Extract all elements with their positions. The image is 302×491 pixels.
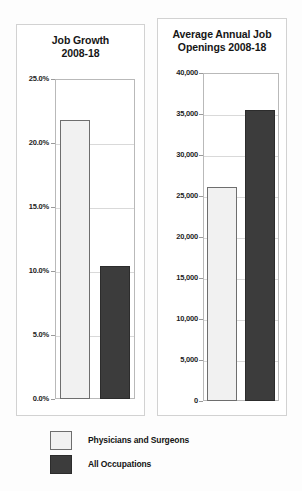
legend-item: All Occupations	[50, 452, 189, 476]
y-axis-tick-label: 20.0%	[9, 139, 49, 147]
legend-swatch-light	[50, 431, 72, 450]
bar-all-occupations	[100, 266, 130, 399]
y-axis-tick-label: 10.0%	[9, 267, 49, 275]
y-axis-tick-label: 30,000	[156, 151, 198, 159]
legend-item: Physicians and Surgeons	[50, 428, 189, 452]
chart-title-line-1: Average Annual Job	[162, 28, 282, 41]
chart-legend: Physicians and SurgeonsAll Occupations	[50, 428, 189, 476]
y-axis-tick-mark	[51, 399, 55, 400]
legend-label: All Occupations	[88, 459, 151, 469]
bar-physicians-and-surgeons	[60, 120, 90, 399]
legend-label: Physicians and Surgeons	[88, 435, 189, 445]
y-axis-tick-label: 25.0%	[9, 75, 49, 83]
chart-page: Job Growth 2008-18 25.0%20.0%15.0%10.0%5…	[0, 0, 302, 491]
y-axis-tick-label: 0	[156, 397, 198, 405]
chart-title-job-growth: Job Growth 2008-18	[21, 34, 140, 60]
legend-swatch-dark	[50, 455, 72, 474]
y-axis-tick-label: 15.0%	[9, 203, 49, 211]
y-axis-tick-mark	[51, 271, 55, 272]
y-axis-tick-label: 0.0%	[9, 395, 49, 403]
y-axis-tick-label: 5.0%	[9, 331, 49, 339]
y-axis-tick-mark	[51, 335, 55, 336]
bar-all-occupations	[245, 110, 275, 401]
y-axis-tick-mark	[51, 79, 55, 80]
y-axis-tick-mark	[199, 196, 203, 197]
y-axis-tick-mark	[199, 73, 203, 74]
y-axis-tick-label: 35,000	[156, 110, 198, 118]
y-axis-tick-mark	[199, 319, 203, 320]
y-axis-tick-mark	[199, 114, 203, 115]
y-axis-tick-mark	[199, 401, 203, 402]
bar-physicians-and-surgeons	[207, 187, 237, 401]
chart-panel-job-openings: Average Annual Job Openings 2008-18 40,0…	[157, 18, 287, 416]
chart-panel-job-growth: Job Growth 2008-18 25.0%20.0%15.0%10.0%5…	[16, 24, 145, 416]
chart-title-line-2: Openings 2008-18	[162, 41, 282, 54]
y-axis-tick-label: 20,000	[156, 233, 198, 241]
y-axis-tick-mark	[51, 143, 55, 144]
chart-title-line-2: 2008-18	[21, 47, 140, 60]
y-axis-tick-mark	[199, 360, 203, 361]
y-axis-tick-label: 15,000	[156, 274, 198, 282]
y-axis-tick-mark	[199, 237, 203, 238]
y-axis-tick-mark	[51, 207, 55, 208]
chart-title-job-openings: Average Annual Job Openings 2008-18	[162, 28, 282, 54]
y-axis-tick-mark	[199, 155, 203, 156]
y-axis-tick-label: 25,000	[156, 192, 198, 200]
y-axis-tick-mark	[199, 278, 203, 279]
y-axis-tick-label: 5,000	[156, 356, 198, 364]
chart-title-line-1: Job Growth	[21, 34, 140, 47]
y-axis-tick-label: 10,000	[156, 315, 198, 323]
y-axis-tick-label: 40,000	[156, 69, 198, 77]
